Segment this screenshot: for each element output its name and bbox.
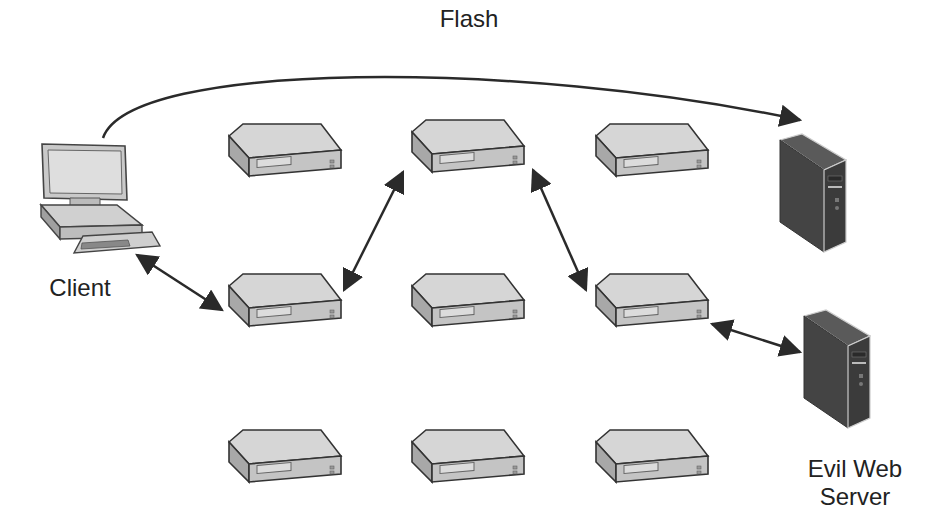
tower-server-icon xyxy=(780,134,846,252)
relay-evil-server-arrow xyxy=(712,324,800,352)
evil-server-tower-icon xyxy=(804,310,870,428)
evil-web-server-label-line2: Server xyxy=(785,483,925,511)
network-device-icon xyxy=(229,124,341,176)
relay-hop-arrow-1 xyxy=(344,172,403,290)
evil-web-server-label-line1: Evil Web xyxy=(785,455,925,483)
network-device-icon xyxy=(596,274,708,326)
network-device-icon xyxy=(229,430,341,482)
network-device-icon xyxy=(229,274,341,326)
network-device-icon xyxy=(412,120,524,172)
client-label: Client xyxy=(30,274,130,302)
network-device-icon xyxy=(412,430,524,482)
flash-label: Flash xyxy=(414,5,524,33)
relay-hop-arrow-2 xyxy=(533,170,586,290)
client-relay-arrow xyxy=(137,255,222,310)
network-device-icon xyxy=(596,430,708,482)
diagram-canvas xyxy=(0,0,947,532)
network-device-icon xyxy=(412,274,524,326)
desktop-computer-icon xyxy=(41,144,160,253)
network-device-icon xyxy=(596,124,708,176)
